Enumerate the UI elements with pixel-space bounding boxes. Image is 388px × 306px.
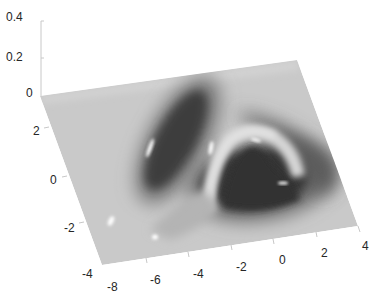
x-tick-label: 0 bbox=[279, 254, 286, 266]
z-tick-label: 0 bbox=[26, 87, 33, 99]
y-tick-label: -2 bbox=[64, 222, 75, 234]
x-tick-label: -2 bbox=[236, 261, 247, 273]
x-tick-label: -6 bbox=[150, 274, 161, 286]
x-tick-label: -4 bbox=[193, 268, 204, 280]
surface-plot-figure: 0.4 0.2 0 2 0 -2 -4 -8 -6 -4 -2 0 2 4 bbox=[0, 0, 388, 306]
x-tick-label: -8 bbox=[107, 281, 118, 293]
x-tick-label: 2 bbox=[321, 247, 328, 259]
z-tick-label: 0.2 bbox=[6, 51, 23, 63]
y-tick-label: 2 bbox=[33, 125, 40, 137]
surface-mesh bbox=[40, 60, 358, 265]
surface-plot-canvas bbox=[0, 0, 388, 306]
z-tick-label: 0.4 bbox=[6, 11, 23, 23]
y-tick-label: -4 bbox=[82, 268, 93, 280]
y-tick-label: 0 bbox=[50, 174, 57, 186]
x-tick-label: 4 bbox=[362, 240, 369, 252]
